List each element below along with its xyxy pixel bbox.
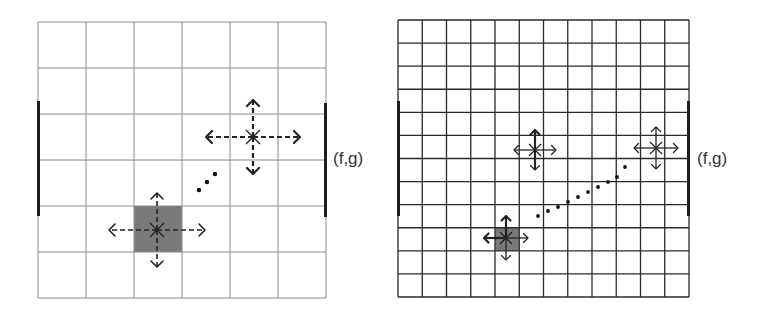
path-dot <box>213 172 217 176</box>
neighbor-marker <box>109 193 205 267</box>
path-dot <box>536 214 540 218</box>
coarse-grid-panel <box>38 22 326 298</box>
fg-label-coarse: (f,g) <box>333 149 363 169</box>
path-dot <box>615 175 619 179</box>
path-dot <box>556 205 560 209</box>
neighbor-marker <box>484 216 528 260</box>
diagram-canvas <box>0 0 764 317</box>
path-dot <box>205 180 209 184</box>
path-dot <box>566 200 570 204</box>
path-dot <box>197 188 201 192</box>
path-dot <box>596 185 600 189</box>
path-dot <box>576 195 580 199</box>
fine-grid-panel <box>398 20 689 297</box>
neighbor-marker <box>206 100 300 174</box>
grid-lines <box>398 20 689 297</box>
path-dot <box>606 180 610 184</box>
path-dot <box>623 165 627 169</box>
fg-label-fine: (f,g) <box>697 149 727 169</box>
grid-lines <box>38 22 326 298</box>
path-dot <box>586 190 590 194</box>
path-dot <box>546 209 550 213</box>
